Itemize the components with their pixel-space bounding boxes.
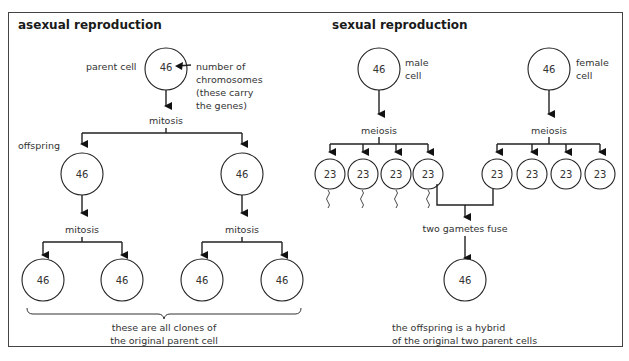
sexual-title: sexual reproduction — [332, 18, 468, 32]
asexual-panel: asexual reproduction 46 parent cell numb… — [18, 18, 303, 346]
egg-cell-value: 23 — [560, 169, 573, 180]
male-cell-value: 46 — [373, 64, 386, 75]
sperm-cell-value: 23 — [422, 169, 435, 180]
male-cell-label-1: male — [405, 57, 429, 68]
annotation-line-2: chromosomes — [196, 74, 263, 85]
zygote-cell-value: 46 — [459, 275, 472, 286]
fusion-connector — [437, 184, 493, 205]
asexual-caption-line-2: the original parent cell — [110, 335, 218, 346]
branch-connector — [82, 128, 242, 133]
sperm-tail-icon — [327, 190, 330, 208]
mitosis-label: mitosis — [225, 224, 259, 235]
offspring-cell-value: 46 — [236, 169, 249, 180]
sperm-tail-icon — [361, 190, 364, 208]
curly-brace-icon — [27, 308, 301, 319]
male-cell-label-2: cell — [405, 70, 421, 81]
sperm-cell-value: 23 — [390, 169, 403, 180]
fuse-label: two gametes fuse — [423, 223, 508, 234]
asexual-caption-line-1: these are all clones of — [112, 322, 217, 333]
parent-cell-label: parent cell — [86, 61, 137, 72]
clone-cell-value: 46 — [37, 275, 50, 286]
female-meiosis-label: meiosis — [531, 125, 567, 136]
sexual-caption-line-1: the offspring is a hybrid — [392, 322, 505, 333]
clone-cell-value: 46 — [196, 275, 209, 286]
egg-cell-value: 23 — [526, 169, 539, 180]
egg-cell-value: 23 — [594, 169, 607, 180]
annotation-line-3: (these carry — [196, 87, 254, 98]
male-meiosis-label: meiosis — [361, 125, 397, 136]
mitosis-label: mitosis — [149, 115, 183, 126]
reproduction-diagram: asexual reproduction 46 parent cell numb… — [0, 0, 629, 361]
female-cell-label-2: cell — [576, 70, 592, 81]
sexual-caption-line-2: of the original two parent cells — [392, 335, 537, 346]
annotation-line-4: the genes) — [196, 100, 247, 111]
branch-connector — [497, 137, 600, 144]
offspring-label: offspring — [18, 140, 60, 151]
asexual-title: asexual reproduction — [18, 18, 162, 32]
offspring-cell-value: 46 — [76, 169, 89, 180]
sperm-tail-icon — [427, 190, 430, 208]
branch-connector — [43, 237, 282, 242]
annotation-line-1: number of — [196, 61, 246, 72]
sperm-cell-value: 23 — [324, 169, 337, 180]
sexual-panel: sexual reproduction 46 male cell meiosis… — [315, 18, 615, 346]
female-cell-value: 46 — [543, 64, 556, 75]
egg-cell-value: 23 — [491, 169, 504, 180]
parent-cell-value: 46 — [160, 62, 173, 73]
clone-cell-value: 46 — [116, 275, 129, 286]
branch-connector — [330, 137, 428, 144]
sperm-tail-icon — [395, 190, 398, 208]
female-cell-label-1: female — [576, 57, 609, 68]
sperm-cell-value: 23 — [357, 169, 370, 180]
mitosis-label: mitosis — [65, 224, 99, 235]
clone-cell-value: 46 — [276, 275, 289, 286]
